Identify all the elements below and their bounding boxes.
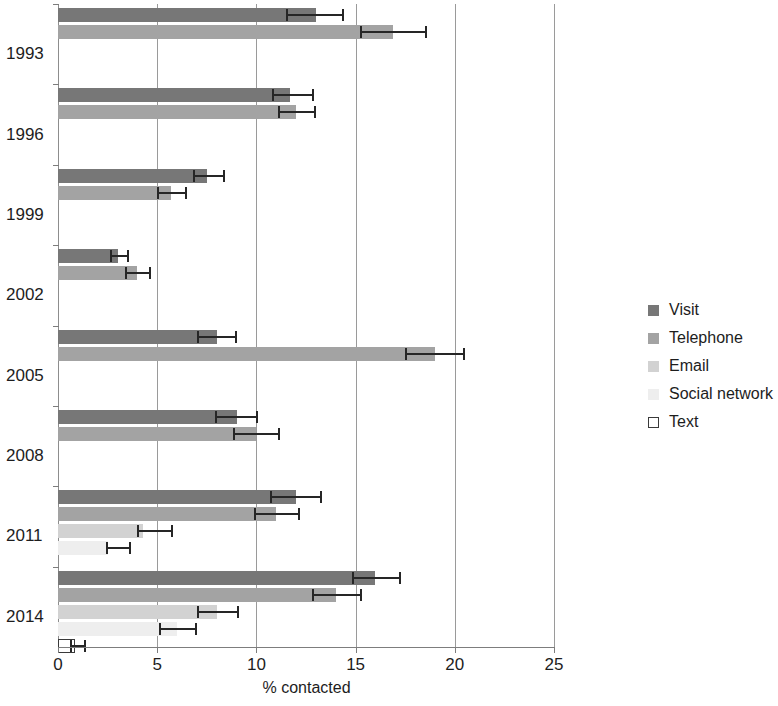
legend-label-email: Email xyxy=(669,357,709,375)
bar-email-2011 xyxy=(58,524,143,538)
legend-item-visit[interactable]: Visit xyxy=(648,296,774,324)
error-bar-cap-low xyxy=(278,106,280,118)
error-bar-cap-low xyxy=(286,9,288,21)
error-bar-line xyxy=(197,336,237,338)
error-bar-cap-low xyxy=(312,589,314,601)
y-label-2008: 2008 xyxy=(6,446,52,466)
y-tick-1996 xyxy=(53,84,59,85)
error-bar-line xyxy=(125,272,151,274)
bar-telephone-2005 xyxy=(58,347,435,361)
bar-chart-figure: 0510152025 % contacted 19931996199920022… xyxy=(0,0,778,706)
error-bar-cap-low xyxy=(215,411,217,423)
bar-social-network-2011 xyxy=(58,541,108,555)
x-tick-label-25: 25 xyxy=(545,655,564,675)
bar-visit-2011 xyxy=(58,490,296,504)
error-bar-line xyxy=(106,547,132,549)
bar-visit-1993 xyxy=(58,8,316,22)
error-bar-cap-high xyxy=(129,542,131,554)
legend-item-email[interactable]: Email xyxy=(648,352,774,380)
error-bar-cap-high xyxy=(463,348,465,360)
y-tick-2011 xyxy=(53,486,59,487)
bar-telephone-2011 xyxy=(58,507,276,521)
bar-row-visit-1993 xyxy=(58,8,554,22)
x-axis-title: % contacted xyxy=(58,679,555,697)
error-bar-line xyxy=(270,496,322,498)
bar-visit-2005 xyxy=(58,330,217,344)
x-tick-25 xyxy=(554,647,555,653)
legend-swatch-telephone-icon xyxy=(648,333,659,344)
error-bar-cap-high xyxy=(127,250,129,262)
x-tick-0 xyxy=(58,647,59,653)
bar-visit-1999 xyxy=(58,169,207,183)
bar-row-visit-2002 xyxy=(58,249,554,263)
error-bar-cap-low xyxy=(233,428,235,440)
error-bar-line xyxy=(360,31,427,33)
legend-item-telephone[interactable]: Telephone xyxy=(648,324,774,352)
bar-row-social-network-2014 xyxy=(58,622,554,636)
error-bar-line xyxy=(197,611,239,613)
bar-row-telephone-2005 xyxy=(58,347,554,361)
error-bar-line xyxy=(137,530,173,532)
error-bar-cap-high xyxy=(278,428,280,440)
error-bar-cap-high xyxy=(360,589,362,601)
bar-group-2011 xyxy=(58,486,554,566)
legend-swatch-visit-icon xyxy=(648,305,659,316)
y-tick-2005 xyxy=(53,326,59,327)
error-bar-line xyxy=(215,416,259,418)
legend-item-text[interactable]: Text xyxy=(648,408,774,436)
bar-group-2005 xyxy=(58,326,554,406)
bar-row-visit-1996 xyxy=(58,88,554,102)
plot-area xyxy=(58,4,554,647)
error-bar-line xyxy=(272,94,314,96)
bar-telephone-2008 xyxy=(58,427,256,441)
error-bar-cap-low xyxy=(157,187,159,199)
bar-row-telephone-1999 xyxy=(58,186,554,200)
error-bar-cap-high xyxy=(235,331,237,343)
y-label-2005: 2005 xyxy=(6,366,52,386)
error-bar-line xyxy=(233,433,281,435)
bar-row-social-network-2011 xyxy=(58,541,554,555)
bar-row-visit-2005 xyxy=(58,330,554,344)
y-label-2011: 2011 xyxy=(6,526,52,546)
bar-telephone-2014 xyxy=(58,588,336,602)
bar-row-visit-1999 xyxy=(58,169,554,183)
bar-row-telephone-2008 xyxy=(58,427,554,441)
error-bar-cap-high xyxy=(425,26,427,38)
y-tick-1999 xyxy=(53,165,59,166)
bar-row-visit-2008 xyxy=(58,410,554,424)
bar-row-visit-2011 xyxy=(58,490,554,504)
bar-telephone-1993 xyxy=(58,25,393,39)
x-tick-label-0: 0 xyxy=(53,655,62,675)
y-label-2002: 2002 xyxy=(6,285,52,305)
bar-group-2014 xyxy=(58,567,554,647)
error-bar-cap-high xyxy=(312,89,314,101)
y-tick-2014 xyxy=(53,567,59,568)
x-tick-20 xyxy=(455,647,456,653)
y-label-2014: 2014 xyxy=(6,607,52,627)
bar-telephone-1996 xyxy=(58,105,296,119)
bar-row-telephone-2011 xyxy=(58,507,554,521)
error-bar-line xyxy=(159,628,197,630)
legend-item-social-network[interactable]: Social network xyxy=(648,380,774,408)
x-tick-label-15: 15 xyxy=(346,655,365,675)
bar-visit-2008 xyxy=(58,410,237,424)
bar-row-visit-2014 xyxy=(58,571,554,585)
bar-row-email-2011 xyxy=(58,524,554,538)
legend-swatch-email-icon xyxy=(648,361,659,372)
bar-group-2008 xyxy=(58,406,554,486)
error-bar-cap-low xyxy=(70,640,72,652)
gridline-25 xyxy=(554,4,555,647)
error-bar-line xyxy=(352,577,402,579)
x-tick-5 xyxy=(157,647,158,653)
error-bar-cap-low xyxy=(137,525,139,537)
error-bar-cap-low xyxy=(254,508,256,520)
error-bar-cap-low xyxy=(405,348,407,360)
y-label-1993: 1993 xyxy=(6,44,52,64)
error-bar-cap-low xyxy=(270,491,272,503)
bar-visit-2002 xyxy=(58,249,118,263)
bar-group-2002 xyxy=(58,245,554,325)
error-bar-cap-low xyxy=(360,26,362,38)
bar-row-telephone-2014 xyxy=(58,588,554,602)
legend: VisitTelephoneEmailSocial networkText xyxy=(648,296,774,436)
error-bar-cap-low xyxy=(197,606,199,618)
